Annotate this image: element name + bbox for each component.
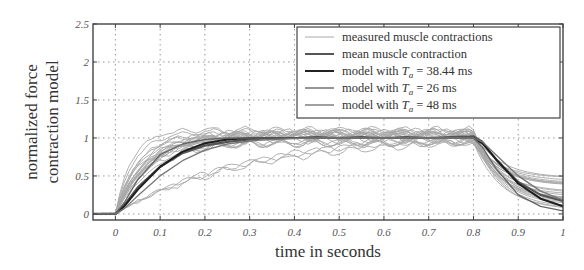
y-axis-label-line-1: normalized force — [22, 64, 41, 180]
legend-label: mean muscle contraction — [342, 47, 468, 61]
y-tick-label: 0 — [84, 208, 90, 220]
y-tick-label: 0.5 — [75, 170, 89, 182]
x-tick-label: 0.6 — [377, 226, 391, 238]
x-tick-label: 0.8 — [467, 226, 481, 238]
y-axis-label-line-2: contraction model — [43, 60, 62, 183]
y-tick-label: 1 — [84, 132, 90, 144]
x-tick-label: 0.7 — [422, 226, 436, 238]
x-tick-label: 0.1 — [153, 226, 167, 238]
y-tick-label: 2 — [84, 56, 90, 68]
y-tick-label: 2.5 — [75, 18, 89, 30]
x-tick-label: 1 — [560, 226, 566, 238]
chart: normalized force contraction model 00.10… — [0, 0, 584, 270]
measured-curves — [93, 126, 563, 215]
legend: measured muscle contractionsmean muscle … — [297, 27, 560, 118]
legend-label: measured muscle contractions — [342, 30, 493, 44]
y-axis-label: normalized force contraction model — [22, 60, 62, 183]
x-tick-label: 0.4 — [288, 226, 302, 238]
legend-label: model with Ta = 26 ms — [342, 81, 457, 97]
x-tick-label: 0 — [113, 226, 119, 238]
x-tick-label: 0.5 — [332, 226, 346, 238]
legend-label: model with Ta = 48 ms — [342, 98, 457, 114]
x-tick-label: 0.2 — [198, 226, 212, 238]
x-axis-label: time in seconds — [275, 242, 381, 261]
y-tick-label: 1.5 — [75, 94, 89, 106]
x-tick-label: 0.3 — [243, 226, 257, 238]
x-tick-label: 0.9 — [511, 226, 525, 238]
legend-label: model with Ta = 38.44 ms — [342, 64, 472, 80]
